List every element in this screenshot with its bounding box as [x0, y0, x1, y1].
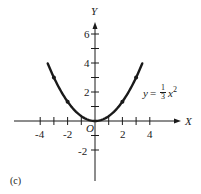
panel-label: (c)	[10, 176, 21, 186]
curve-point	[66, 100, 70, 104]
x-axis-arrow-icon	[174, 119, 181, 124]
y-axis-label: Y	[91, 6, 97, 17]
y-tick-label-2: 2	[84, 87, 90, 98]
x-tick-label-4: 4	[147, 129, 153, 140]
equation-equals: =	[150, 87, 156, 99]
x-axis-label: X	[185, 116, 192, 127]
origin-label: O	[86, 123, 94, 134]
curve-point	[52, 76, 56, 80]
y-axis-arrow-icon	[93, 22, 98, 29]
x-tick-label-neg4: -4	[35, 129, 44, 140]
y-tick-label-neg2: -2	[78, 146, 87, 157]
equation-fraction: 1 3	[160, 84, 166, 101]
y-tick-label-4: 4	[84, 58, 90, 69]
y-tick-label-6: 6	[84, 29, 90, 40]
equation-lhs: y	[143, 87, 148, 99]
x-tick-label-2: 2	[120, 129, 126, 140]
curve-point	[120, 100, 124, 104]
fraction-denominator: 3	[161, 93, 165, 101]
x-tick-label-neg2: -2	[63, 129, 72, 140]
equation-exponent: 2	[173, 85, 177, 94]
curve-point	[134, 76, 138, 80]
curve-equation: y = 1 3 x 2	[143, 84, 177, 101]
